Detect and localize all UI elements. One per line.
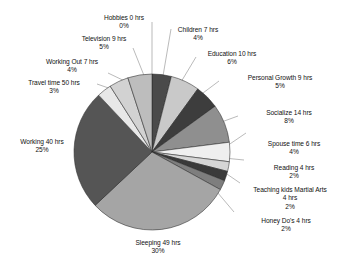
pie-label-teaching-kids-percent: 2% bbox=[236, 203, 344, 211]
pie-label-travel-time-percent: 3% bbox=[6, 87, 102, 95]
pie-label-children-text: Children 7 hrs bbox=[158, 26, 238, 34]
pie-label-honey-dos-percent: 2% bbox=[238, 225, 334, 233]
pie-label-television: Television 9 hrs 5% bbox=[58, 35, 150, 52]
pie-label-spouse-time-percent: 4% bbox=[246, 148, 342, 156]
pie-label-personal-growth-text: Personal Growth 9 hrs bbox=[226, 74, 334, 82]
pie-label-children-percent: 4% bbox=[158, 34, 238, 42]
pie-chart: Hobbies 0 hrs 0% Television 9 hrs 5% Wor… bbox=[0, 0, 344, 264]
pie-label-working-text: Working 40 hrs bbox=[4, 138, 80, 146]
pie-label-reading-text: Reading 4 hrs bbox=[250, 164, 338, 172]
pie-label-children: Children 7 hrs 4% bbox=[158, 26, 238, 43]
pie-label-education: Education 10 hrs 6% bbox=[188, 50, 276, 67]
pie-label-education-text: Education 10 hrs bbox=[188, 50, 276, 58]
pie-label-spouse-time: Spouse time 6 hrs 4% bbox=[246, 140, 342, 157]
pie-label-teaching-kids-martial-arts: Teaching kids Martial Arts 4 hrs 2% bbox=[236, 186, 344, 211]
pie-label-honey-dos-text: Honey Do's 4 hrs bbox=[238, 217, 334, 225]
pie-label-travel-time: Travel time 50 hrs 3% bbox=[6, 79, 102, 96]
pie-label-reading: Reading 4 hrs 2% bbox=[250, 164, 338, 181]
pie-label-socialize: Socialize 14 hrs 8% bbox=[243, 109, 335, 126]
pie-label-sleeping-text: Sleeping 49 hrs bbox=[108, 239, 208, 247]
pie-label-working-out: Working Out 7 hrs 4% bbox=[26, 58, 118, 75]
pie-label-television-percent: 5% bbox=[58, 43, 150, 51]
pie-label-working-percent: 25% bbox=[4, 146, 80, 154]
pie-label-reading-percent: 2% bbox=[250, 172, 338, 180]
pie-label-travel-time-text: Travel time 50 hrs bbox=[6, 79, 102, 87]
pie-label-personal-growth-percent: 5% bbox=[226, 82, 334, 90]
pie-label-working: Working 40 hrs 25% bbox=[4, 138, 80, 155]
pie-label-spouse-time-text: Spouse time 6 hrs bbox=[246, 140, 342, 148]
pie-slices bbox=[74, 74, 230, 230]
pie-label-sleeping: Sleeping 49 hrs 30% bbox=[108, 239, 208, 256]
pie-label-sleeping-percent: 30% bbox=[108, 247, 208, 255]
pie-label-teaching-kids-hours: 4 hrs bbox=[236, 194, 344, 202]
pie-label-socialize-percent: 8% bbox=[243, 117, 335, 125]
pie-label-working-out-percent: 4% bbox=[26, 66, 118, 74]
pie-label-honey-dos: Honey Do's 4 hrs 2% bbox=[238, 217, 334, 234]
pie-label-personal-growth: Personal Growth 9 hrs 5% bbox=[226, 74, 334, 91]
pie-label-television-text: Television 9 hrs bbox=[58, 35, 150, 43]
leader-line-television bbox=[133, 48, 145, 78]
pie-label-working-out-text: Working Out 7 hrs bbox=[26, 58, 118, 66]
pie-label-hobbies-text: Hobbies 0 hrs bbox=[78, 14, 170, 22]
pie-label-hobbies-percent: 0% bbox=[78, 22, 170, 30]
pie-label-socialize-text: Socialize 14 hrs bbox=[243, 109, 335, 117]
pie-label-teaching-kids-text: Teaching kids Martial Arts bbox=[236, 186, 344, 194]
pie-label-hobbies: Hobbies 0 hrs 0% bbox=[78, 14, 170, 31]
pie-label-education-percent: 6% bbox=[188, 58, 276, 66]
